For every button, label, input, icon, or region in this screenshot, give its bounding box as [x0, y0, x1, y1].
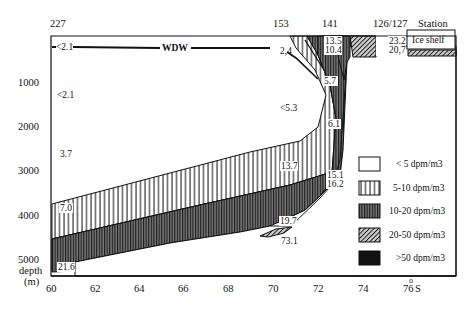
- y-axis-unit: (m): [24, 276, 40, 288]
- value-label: 10.4: [325, 45, 342, 55]
- y-axis-label: depth: [19, 265, 43, 276]
- value-label: <2.1: [56, 42, 73, 52]
- value-label: 5.7: [324, 76, 336, 86]
- x-tick: 62: [90, 283, 101, 294]
- station-axis-label: Station: [418, 18, 449, 29]
- value-label: <5.3: [280, 103, 297, 113]
- x-axis-unit: S: [415, 283, 421, 294]
- ice-shelf: Ice shelf: [407, 30, 455, 49]
- station-227: 227: [50, 18, 66, 29]
- value-label: 16.2: [327, 179, 344, 189]
- x-tick: 64: [134, 283, 145, 294]
- legend-swatch-sparse: [359, 181, 380, 195]
- value-label: 73.1: [281, 236, 298, 246]
- value-label: 2,4: [280, 46, 292, 56]
- legend-swatch-white: [359, 157, 380, 171]
- legend-label: >50 dpm/m3: [396, 253, 445, 263]
- degree-symbol: o: [409, 276, 413, 285]
- station-126-127: 126/127: [373, 18, 407, 29]
- concentration-regions: [52, 36, 456, 276]
- legend-label: 10-20 dpm/m3: [389, 206, 445, 216]
- legend-swatch-solid: [359, 251, 380, 265]
- station-141: 141: [322, 18, 338, 29]
- x-tick: 70: [268, 283, 279, 294]
- y-tick: 5000: [18, 254, 39, 265]
- x-tick: 60: [46, 283, 57, 294]
- legend-swatch-dense: [359, 204, 380, 218]
- wdw-label: WDW: [162, 43, 188, 53]
- station-153: 153: [273, 18, 289, 29]
- value-label: 13.7: [281, 161, 298, 171]
- x-tick: 72: [313, 283, 324, 294]
- y-tick: 3000: [18, 165, 39, 176]
- station-labels: 227 153 141 126/127 Station: [50, 18, 449, 29]
- value-label: 19.7: [280, 216, 297, 226]
- legend-label: 5-10 dpm/m3: [393, 183, 445, 193]
- x-tick: 66: [178, 283, 189, 294]
- x-tick: 68: [223, 283, 234, 294]
- value-label: <2.1: [57, 90, 74, 100]
- value-label: 3.7: [60, 149, 72, 159]
- y-tick: 1000: [18, 77, 39, 88]
- x-axis: 60 62 64 66 68 70 72 74 76 o S: [46, 276, 421, 294]
- value-label: 7.0: [60, 203, 72, 213]
- value-label: 21.6: [58, 262, 75, 272]
- y-tick: 2000: [18, 121, 39, 132]
- section-diagram: Ice shelf 227 153 141 126/127 Station 10…: [0, 0, 473, 309]
- legend-swatch-diagonal: [359, 228, 380, 242]
- value-label: 6.1: [328, 119, 340, 129]
- x-tick: 74: [358, 283, 369, 294]
- legend-label: 20-50 dpm/m3: [389, 230, 445, 240]
- y-tick: 4000: [18, 210, 39, 221]
- legend-label: < 5 dpm/m3: [396, 159, 443, 169]
- y-axis: 1000 2000 3000 4000 5000 depth (m): [18, 77, 43, 288]
- value-label: 20,7: [389, 45, 406, 55]
